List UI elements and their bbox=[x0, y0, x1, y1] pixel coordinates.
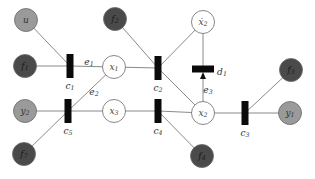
node-f1: f1 bbox=[14, 55, 37, 78]
factor-label-c4: c4 bbox=[153, 126, 162, 136]
node-u: u bbox=[15, 9, 38, 32]
node-x3: x3 bbox=[103, 100, 126, 123]
node-f4: f4 bbox=[191, 145, 214, 168]
factor-label-d1: d1 bbox=[217, 67, 227, 77]
node-f3: f3 bbox=[280, 59, 303, 82]
factor-c5 bbox=[65, 99, 72, 123]
node-label-u: u bbox=[23, 15, 29, 25]
node-f7: f7 bbox=[13, 143, 36, 166]
node-y2: y2 bbox=[14, 100, 37, 123]
edge-label-e2: e2 bbox=[89, 87, 98, 97]
factor-d1 bbox=[192, 66, 214, 73]
edge-label-e1: e1 bbox=[84, 57, 93, 67]
factor-c3 bbox=[242, 101, 249, 125]
factor-label-c5: c5 bbox=[63, 126, 72, 136]
factor-c4 bbox=[155, 99, 162, 123]
factor-label-c3: c3 bbox=[240, 128, 249, 138]
factor-c1 bbox=[67, 54, 74, 78]
factor-c2 bbox=[155, 56, 162, 80]
arrowhead-icon bbox=[200, 72, 206, 79]
node-xd2: ẋ2 bbox=[192, 11, 215, 34]
edge-label-e3: e3 bbox=[203, 85, 212, 95]
node-x1: x1 bbox=[103, 56, 126, 79]
node-f2: f2 bbox=[104, 8, 127, 31]
node-x2: x2 bbox=[192, 102, 215, 125]
node-y1: y1 bbox=[279, 102, 302, 125]
factor-label-c2: c2 bbox=[153, 83, 162, 93]
factor-graph-diagram: uf1y2f7x1x3f2ẋ2x2f4f3y1 c1c2c3c4c5d1e1e2… bbox=[0, 0, 315, 179]
factor-label-c1: c1 bbox=[65, 81, 74, 91]
